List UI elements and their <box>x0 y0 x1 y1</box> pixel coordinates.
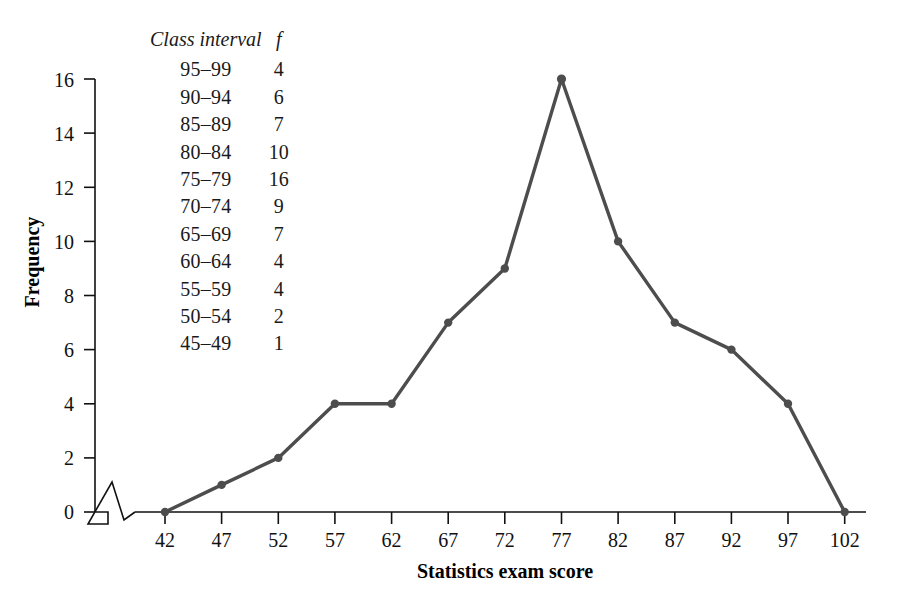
cell-frequency: 9 <box>262 193 296 220</box>
cell-frequency: 4 <box>262 56 296 83</box>
table-row: 90–94 6 <box>150 84 296 111</box>
x-tick-label-67: 67 <box>428 530 468 550</box>
data-point <box>217 481 225 489</box>
table-row: 70–74 9 <box>150 193 296 220</box>
chart-canvas <box>0 0 901 591</box>
cell-frequency: 1 <box>262 330 296 357</box>
cell-frequency: 2 <box>262 303 296 330</box>
y-tick-label-0: 0 <box>40 502 74 522</box>
cell-class-interval: 85–89 <box>150 111 262 138</box>
frequency-polygon-figure: 0 2 4 6 8 10 12 14 16 42 47 52 57 62 67 … <box>0 0 901 591</box>
cell-class-interval: 75–79 <box>150 166 262 193</box>
cell-class-interval: 55–59 <box>150 276 262 303</box>
data-point <box>387 400 395 408</box>
cell-frequency: 4 <box>262 276 296 303</box>
x-axis-ticks <box>165 512 845 524</box>
x-tick-label-77: 77 <box>542 530 582 550</box>
table-row: 95–99 4 <box>150 56 296 83</box>
x-tick-label-42: 42 <box>145 530 185 550</box>
data-point <box>671 318 679 326</box>
cell-frequency: 7 <box>262 111 296 138</box>
frequency-distribution-table: Class interval f 95–99 4 90–94 6 85–89 7 <box>150 26 296 358</box>
table-row: 80–84 10 <box>150 139 296 166</box>
x-tick-label-47: 47 <box>202 530 242 550</box>
y-tick-label-2: 2 <box>40 448 74 468</box>
x-tick-label-82: 82 <box>598 530 638 550</box>
y-axis-title: Frequency <box>22 192 42 332</box>
x-tick-label-57: 57 <box>315 530 355 550</box>
data-point <box>161 508 169 516</box>
x-tick-label-52: 52 <box>258 530 298 550</box>
cell-class-interval: 60–64 <box>150 248 262 275</box>
cell-class-interval: 90–94 <box>150 84 262 111</box>
cell-frequency: 7 <box>262 221 296 248</box>
data-point <box>614 237 622 245</box>
table-row: 50–54 2 <box>150 303 296 330</box>
data-point <box>557 74 566 83</box>
table-row: 60–64 4 <box>150 248 296 275</box>
x-tick-label-92: 92 <box>711 530 751 550</box>
data-point <box>501 264 509 272</box>
cell-class-interval: 45–49 <box>150 330 262 357</box>
cell-class-interval: 50–54 <box>150 303 262 330</box>
y-tick-label-6: 6 <box>40 340 74 360</box>
data-point <box>274 454 282 462</box>
cell-class-interval: 80–84 <box>150 139 262 166</box>
cell-frequency: 10 <box>262 139 296 166</box>
freq-table-element: Class interval f 95–99 4 90–94 6 85–89 7 <box>150 26 296 358</box>
column-header-class-interval: Class interval <box>150 26 262 56</box>
x-tick-label-87: 87 <box>655 530 695 550</box>
data-point <box>727 345 735 353</box>
cell-class-interval: 95–99 <box>150 56 262 83</box>
table-body: 95–99 4 90–94 6 85–89 7 80–84 10 75–79 <box>150 56 296 357</box>
y-tick-label-4: 4 <box>40 394 74 414</box>
y-tick-label-16: 16 <box>34 70 74 90</box>
cell-class-interval: 65–69 <box>150 221 262 248</box>
table-row: 65–69 7 <box>150 221 296 248</box>
data-point <box>444 318 452 326</box>
cell-class-interval: 70–74 <box>150 193 262 220</box>
y-axis-ticks <box>84 79 95 512</box>
y-tick-label-8: 8 <box>40 286 74 306</box>
cell-frequency: 4 <box>262 248 296 275</box>
cell-frequency: 16 <box>262 166 296 193</box>
y-tick-label-14: 14 <box>34 124 74 144</box>
table-row: 85–89 7 <box>150 111 296 138</box>
table-row: 75–79 16 <box>150 166 296 193</box>
data-point <box>784 400 792 408</box>
x-axis-title: Statistics exam score <box>340 561 670 581</box>
x-tick-label-102: 102 <box>820 530 870 550</box>
table-row: 55–59 4 <box>150 276 296 303</box>
data-point <box>331 400 339 408</box>
x-tick-label-97: 97 <box>768 530 808 550</box>
x-tick-label-62: 62 <box>372 530 412 550</box>
table-header-row: Class interval f <box>150 26 296 56</box>
table-row: 45–49 1 <box>150 330 296 357</box>
data-point <box>841 508 849 516</box>
cell-frequency: 6 <box>262 84 296 111</box>
x-tick-label-72: 72 <box>485 530 525 550</box>
column-header-frequency: f <box>262 26 296 56</box>
